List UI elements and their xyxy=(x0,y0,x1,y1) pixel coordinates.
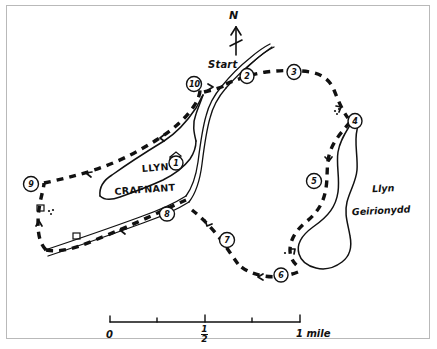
llyn-crafnant-line1: LLYN xyxy=(141,161,169,174)
map-figure: N Start LLYN CRAFNANT Llyn Geirionydd 1 … xyxy=(0,0,437,349)
route-dashed-south xyxy=(192,210,298,277)
north-arrow-icon xyxy=(230,27,242,55)
scale-midpoint-label: 1 2 xyxy=(201,325,208,344)
llyn-crafnant-label: LLYN CRAFNANT xyxy=(126,152,177,216)
llyn-geirionydd-line1: Llyn xyxy=(372,182,395,194)
marker-label-8: 8 xyxy=(162,210,172,219)
scale-mid-numerator: 1 xyxy=(201,325,208,334)
marker-label-4: 4 xyxy=(350,117,360,126)
scale-start-label: 0 xyxy=(106,329,113,340)
compass-north-label: N xyxy=(229,10,238,22)
marker-label-6: 6 xyxy=(276,271,286,280)
route-direction-arrows xyxy=(36,70,341,280)
marker-label-9: 9 xyxy=(26,180,36,189)
marker-label-1: 1 xyxy=(171,159,181,168)
llyn-geirionydd-label: Llyn Geirionydd xyxy=(358,172,412,236)
llyn-geirionydd-line2: Geirionydd xyxy=(352,204,411,217)
llyn-geirionydd-shape xyxy=(298,120,358,269)
marker-label-3: 3 xyxy=(289,68,299,77)
marker-label-5: 5 xyxy=(309,177,319,186)
start-label: Start xyxy=(208,60,237,71)
marker-label-10: 10 xyxy=(189,80,199,89)
marker-label-2: 2 xyxy=(242,72,252,81)
marker-label-7: 7 xyxy=(222,236,232,245)
scale-mid-denominator: 2 xyxy=(201,335,208,344)
scale-end-label: 1 mile xyxy=(296,328,331,339)
llyn-crafnant-line2: CRAFNANT xyxy=(114,183,176,197)
scale-bar-graphic xyxy=(110,315,300,322)
